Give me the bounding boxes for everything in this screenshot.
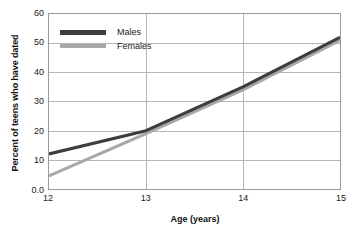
legend-item-females: Females — [60, 39, 190, 53]
y-tick-20: 20 — [18, 127, 44, 136]
legend-swatch-females — [60, 44, 106, 48]
legend-label-males: Males — [117, 28, 141, 37]
y-tick-50: 50 — [18, 38, 44, 47]
line-chart: Percent of teens who have dated 60504030… — [0, 0, 354, 234]
x-tick-13: 13 — [131, 194, 161, 203]
x-axis-tick-labels: 12131415 — [0, 194, 354, 208]
x-axis-title: Age (years) — [48, 214, 342, 224]
legend-swatch-males — [60, 30, 106, 35]
y-tick-40: 40 — [18, 68, 44, 77]
y-tick-60: 60 — [18, 9, 44, 18]
x-tick-14: 14 — [228, 194, 258, 203]
legend-label-females: Females — [117, 42, 152, 51]
legend-item-males: Males — [60, 25, 190, 39]
y-tick-10: 10 — [18, 156, 44, 165]
y-tick-30: 30 — [18, 97, 44, 106]
chart-legend: Males Females — [60, 25, 190, 53]
x-tick-12: 12 — [33, 194, 63, 203]
x-tick-15: 15 — [326, 194, 354, 203]
